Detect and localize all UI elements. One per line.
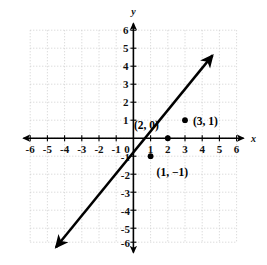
x-tick-label: -2	[94, 143, 104, 155]
x-tick-label: -4	[60, 143, 70, 155]
point-label: (1, −1)	[157, 166, 189, 179]
x-tick-label: -6	[26, 143, 36, 155]
y-axis-name: y	[130, 6, 136, 17]
x-tick-label: -5	[43, 143, 53, 155]
graph-figure: -6 -5 -4 -3 -2 -1 0 1 2 3 4 5 6 6 5 4 3 …	[0, 0, 267, 265]
x-tick-label: -3	[77, 143, 87, 155]
y-tick-label: -5	[121, 223, 131, 235]
x-axis-name: x	[250, 133, 256, 144]
x-tick-label: 1	[148, 143, 154, 155]
x-tick-label: -1	[112, 143, 121, 155]
y-tick-label: -4	[121, 205, 131, 217]
y-tick-label: 4	[123, 60, 129, 72]
y-tick-label: 5	[123, 42, 129, 54]
y-tick-label: -6	[121, 237, 131, 249]
data-point	[148, 153, 154, 159]
x-tick-label: 6	[234, 143, 240, 155]
x-tick-label: 2	[165, 143, 171, 155]
point-label: (3, 1)	[193, 115, 218, 128]
y-tick-label: 6	[123, 24, 129, 36]
point-label: (2, 0)	[134, 119, 159, 132]
y-tick-label: -3	[121, 187, 131, 199]
y-tick-label: -2	[121, 169, 131, 181]
y-tick-label: 3	[123, 78, 129, 90]
y-tick-label: 2	[123, 96, 129, 108]
data-point	[165, 135, 171, 141]
data-point	[182, 117, 188, 123]
coordinate-plane-svg: -6 -5 -4 -3 -2 -1 0 1 2 3 4 5 6 6 5 4 3 …	[0, 0, 267, 265]
x-tick-label: 4	[199, 143, 205, 155]
y-tick-label: 1	[123, 114, 129, 126]
x-tick-label: 5	[217, 143, 223, 155]
x-tick-label: 3	[182, 143, 188, 155]
